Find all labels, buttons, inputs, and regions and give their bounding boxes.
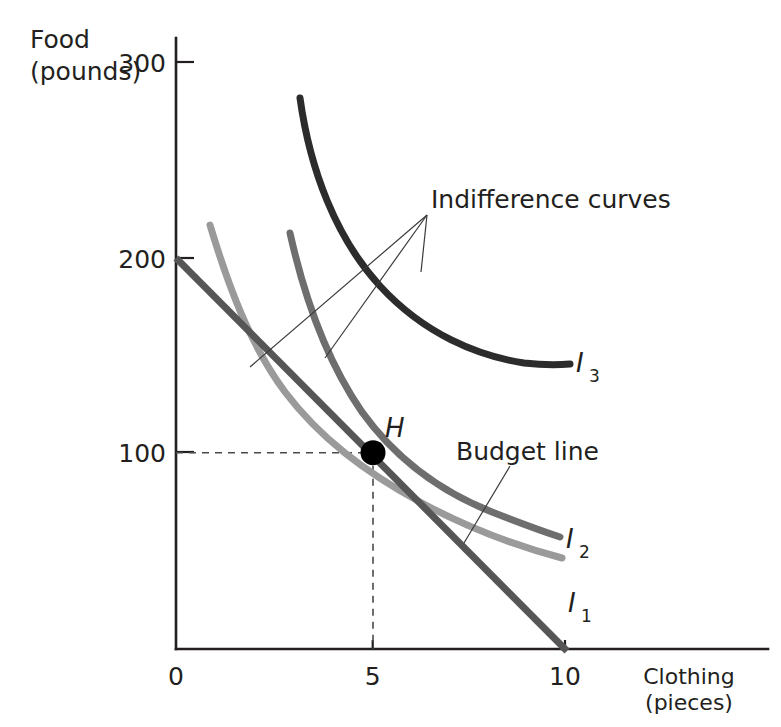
indifference-curve-i2 — [290, 233, 560, 537]
curve-label-i2: I 2 — [566, 524, 590, 562]
x-tick-label-5: 5 — [365, 662, 381, 691]
leader-to-i1 — [250, 215, 427, 367]
leader-to-i2 — [325, 215, 427, 358]
y-axis-title-line1: Food — [30, 25, 90, 54]
x-axis-title-line1: Clothing — [643, 664, 735, 689]
indifference-curves-leaders — [250, 215, 427, 367]
curve-label-i1-letter: I — [568, 588, 576, 618]
x-tick-label-0: 0 — [168, 662, 184, 691]
indifference-curves-label: Indifference curves — [431, 185, 671, 214]
point-h-marker — [361, 440, 386, 465]
curve-label-i1: I 1 — [568, 588, 592, 626]
curve-label-i3-letter: I — [576, 348, 584, 378]
budget-line-label: Budget line — [456, 437, 599, 466]
curve-label-i3-subscript: 3 — [589, 366, 600, 386]
curve-label-i1-subscript: 1 — [581, 606, 592, 626]
indifference-curve-figure: 300 200 100 0 5 10 Food (pounds) Clothin… — [0, 0, 781, 727]
chart-canvas: 300 200 100 0 5 10 Food (pounds) Clothin… — [0, 0, 781, 727]
x-tick-label-10: 10 — [549, 662, 581, 691]
curve-label-i2-letter: I — [566, 524, 574, 554]
leader-to-i3 — [421, 215, 427, 272]
y-tick-label-200: 200 — [118, 245, 166, 274]
x-axis-title-line2: (pieces) — [645, 690, 733, 715]
y-tick-label-100: 100 — [118, 439, 166, 468]
indifference-curve-i1 — [210, 225, 562, 558]
indifference-curve-i3 — [300, 98, 570, 365]
point-h-label: H — [385, 413, 405, 443]
y-axis-title-line2: (pounds) — [30, 57, 141, 86]
curve-label-i3: I 3 — [576, 348, 600, 386]
curve-label-i2-subscript: 2 — [579, 542, 590, 562]
